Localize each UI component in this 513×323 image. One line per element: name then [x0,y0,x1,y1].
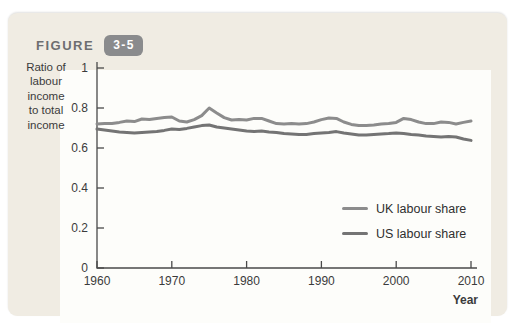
series-line-us [97,125,471,140]
x-tick-label: 2000 [383,274,410,288]
y-tick-label: 0.2 [71,221,88,235]
x-tick-label: 1990 [308,274,335,288]
x-tick-label: 1980 [233,274,260,288]
us-line-swatch [342,232,368,235]
legend-item-us: US labour share [342,225,466,242]
x-axis-label: Year [430,293,478,307]
x-tick-label: 2010 [458,274,485,288]
y-tick-label: 1 [81,61,88,75]
line-chart: 00.20.40.60.81196019701980199020002010 [0,0,513,323]
legend-label-uk: UK labour share [376,202,466,216]
legend-item-uk: UK labour share [342,200,466,217]
y-tick-label: 0.8 [71,101,88,115]
legend-label-us: US labour share [376,227,466,241]
y-tick-label: 0.6 [71,141,88,155]
chart-legend: UK labour share US labour share [342,200,466,250]
y-tick-label: 0.4 [71,181,88,195]
y-tick-label: 0 [81,261,88,275]
x-tick-label: 1970 [158,274,185,288]
x-tick-label: 1960 [84,274,111,288]
series-line-uk [97,108,471,126]
uk-line-swatch [342,207,368,210]
figure-page: FIGURE 3-5 Ratio of labour income to tot… [0,0,513,323]
